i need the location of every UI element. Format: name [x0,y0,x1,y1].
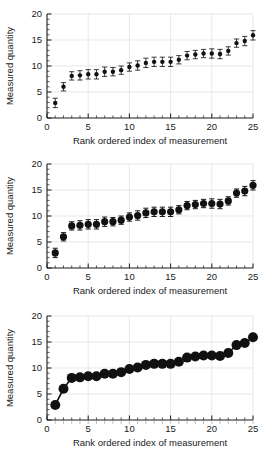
data-point [183,202,190,209]
data-point [61,85,65,89]
data-point [223,348,233,358]
data-point [152,60,156,64]
data-markers [52,182,257,257]
data-point [175,206,182,213]
data-point [68,222,75,229]
data-point [53,101,57,105]
data-point [234,41,238,45]
panel-b: 051015200510152025Rank ordered index of … [0,150,260,302]
y-tick-label: 5 [37,388,42,399]
x-tick-label: 5 [86,121,91,132]
y-axis-title: Measured quantity [4,329,15,407]
y-tick-label: 0 [37,112,42,123]
y-tick-label: 20 [31,8,42,19]
error-bars [53,31,256,108]
data-point [101,218,108,225]
error-bars [53,181,256,258]
y-tick-label: 20 [31,158,42,169]
data-point [218,52,222,56]
data-point [200,200,207,207]
x-tick-label: 5 [86,423,91,434]
data-point [52,249,59,256]
x-tick-label: 25 [248,423,259,434]
gridlines [47,316,253,420]
data-point [185,53,189,57]
data-point [210,51,214,55]
data-point [248,332,258,342]
data-point [159,208,166,215]
data-point [201,51,205,55]
x-tick-label: 20 [207,271,218,282]
y-tick-label: 15 [31,184,42,195]
data-point [70,74,74,78]
data-point [251,33,255,37]
data-point [216,200,223,207]
plot-area-panel-2: 051015200510152025Rank ordered index of … [0,302,260,454]
data-point [243,39,247,43]
data-point [76,222,83,229]
x-tick-label: 15 [165,271,176,282]
plot-area-panel-0: 051015200510152025Rank ordered index of … [0,0,260,150]
data-point [85,221,92,228]
data-point [192,201,199,208]
x-tick-label: 10 [124,423,135,434]
x-tick-label: 20 [207,121,218,132]
x-tick-label: 10 [124,121,135,132]
data-point [50,400,60,410]
y-axis-title: Measured quantity [4,177,15,255]
x-tick-label: 5 [86,271,91,282]
y-tick-label: 0 [37,262,42,273]
data-markers [50,332,258,410]
x-axis-ticks [47,114,253,119]
data-point [249,182,256,189]
gridlines [47,164,253,268]
data-point [233,190,240,197]
data-point [86,72,90,76]
data-point [127,65,131,69]
data-point [144,61,148,65]
y-tick-label: 15 [31,336,42,347]
x-axis-title: Rank ordered index of measurement [73,437,228,448]
y-tick-label: 0 [37,414,42,425]
data-point [167,208,174,215]
x-tick-label: 25 [248,271,259,282]
data-point [168,60,172,64]
data-point [226,49,230,53]
data-point [58,384,68,394]
data-point [151,208,158,215]
gridlines [47,14,253,118]
data-point [193,52,197,56]
x-axis-title: Rank ordered index of measurement [73,285,228,296]
y-tick-label: 5 [37,236,42,247]
data-point [60,233,67,240]
data-point [126,213,133,220]
x-tick-label: 10 [124,271,135,282]
data-markers [53,33,255,105]
data-point [119,68,123,72]
data-point [102,70,106,74]
data-point [177,58,181,62]
panel-a: 051015200510152025Rank ordered index of … [0,0,260,150]
y-tick-label: 5 [37,86,42,97]
data-point [93,221,100,228]
figure-three-panel-rank-ordered-plot: 051015200510152025Rank ordered index of … [0,0,260,454]
x-tick-label: 0 [44,121,49,132]
data-point [208,200,215,207]
panel-c: 051015200510152025Rank ordered index of … [0,302,260,454]
data-point [135,63,139,67]
x-tick-label: 20 [207,423,218,434]
series-line [55,337,253,405]
x-axis-ticks [47,264,253,269]
data-point [240,338,250,348]
data-point [241,187,248,194]
y-tick-label: 20 [31,310,42,321]
x-tick-label: 0 [44,271,49,282]
y-tick-label: 10 [31,60,42,71]
data-point [118,217,125,224]
data-point [142,209,149,216]
y-tick-label: 10 [31,210,42,221]
data-point [78,73,82,77]
data-point [111,70,115,74]
data-point [225,197,232,204]
data-point [160,60,164,64]
